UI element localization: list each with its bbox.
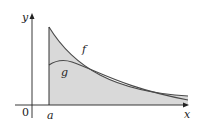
f-label: f	[82, 44, 86, 55]
y-axis-label: y	[22, 12, 28, 23]
origin-label: 0	[22, 107, 29, 118]
a-label: a	[47, 110, 54, 121]
area-between-curves-figure: y x 0 a f g	[0, 0, 200, 129]
plot-svg	[0, 0, 200, 129]
g-label: g	[61, 67, 68, 78]
shaded-region	[49, 27, 188, 105]
x-axis-label: x	[184, 109, 190, 120]
y-axis-arrow-icon	[30, 13, 35, 19]
